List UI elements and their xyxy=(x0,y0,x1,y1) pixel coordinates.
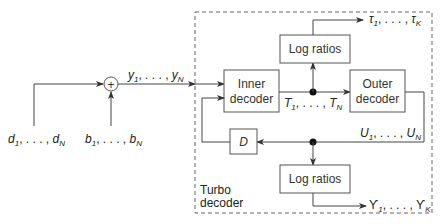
container-label-line1: Turbo xyxy=(200,183,231,197)
log-ratios-top-block: Log ratios xyxy=(280,35,350,63)
svg-text:decoder: decoder xyxy=(230,92,273,106)
tau-output-path xyxy=(313,20,363,35)
svg-text:Outer: Outer xyxy=(362,77,392,91)
svg-text:Inner: Inner xyxy=(238,77,265,91)
noise-label: b1, . . . , bN xyxy=(85,132,142,148)
log-ratios-bottom-block: Log ratios xyxy=(280,165,350,193)
input-data-path xyxy=(34,84,103,126)
svg-text:decoder: decoder xyxy=(356,92,399,106)
container-label-line2: decoder xyxy=(200,196,243,210)
received-label: y1, . . . , yN xyxy=(127,68,184,84)
svg-text:Log ratios: Log ratios xyxy=(289,42,342,56)
tau-output-label: τ1, . . . , τK xyxy=(369,12,422,28)
upsilon-output-path xyxy=(313,193,366,206)
adder-node: + xyxy=(104,77,118,92)
svg-text:D: D xyxy=(239,135,248,149)
svg-text:Log ratios: Log ratios xyxy=(289,172,342,186)
turbo-decoder-diagram: Turbo decoder d1, . . . , dN b1, . . . ,… xyxy=(0,0,442,224)
upsilon-output-label: ϒ1, . . . , ϒK xyxy=(369,198,431,214)
outer-output-label: U1, . . . , UN xyxy=(360,126,421,142)
delay-block: D xyxy=(230,129,257,154)
inner-output-label: T1, . . . , TN xyxy=(284,96,342,112)
outer-decoder-block: Outer decoder xyxy=(350,70,405,112)
inner-decoder-block: Inner decoder xyxy=(224,70,279,112)
plus-icon: + xyxy=(107,78,114,92)
input-data-label: d1, . . . , dN xyxy=(8,132,65,148)
inner-output-path xyxy=(279,63,350,96)
